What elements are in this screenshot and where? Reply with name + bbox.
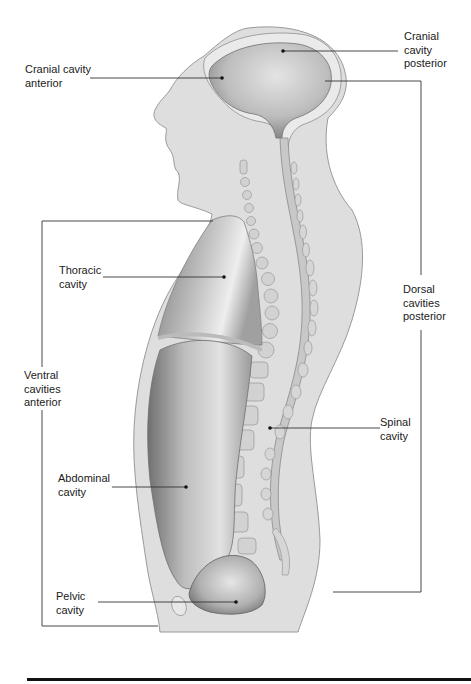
label-dorsal-cavities-posterior: Dorsal cavities posterior xyxy=(403,283,446,324)
label-line: cavities xyxy=(24,383,61,397)
label-line: Cranial cavity xyxy=(25,63,91,77)
label-spinal-cavity: Spinal cavity xyxy=(380,416,411,443)
label-line: Abdominal xyxy=(58,472,110,486)
label-abdominal-cavity: Abdominal cavity xyxy=(58,472,110,499)
label-line: posterior xyxy=(403,310,446,324)
label-line: cavity xyxy=(56,604,85,618)
label-line: posterior xyxy=(404,57,447,71)
label-line: cavity xyxy=(380,430,411,444)
label-pelvic-cavity: Pelvic cavity xyxy=(56,590,85,617)
label-thoracic-cavity: Thoracic cavity xyxy=(59,264,101,291)
label-line: cavity xyxy=(59,278,101,292)
label-line: Dorsal xyxy=(403,283,446,297)
label-line: cavity xyxy=(58,486,110,500)
label-line: Thoracic xyxy=(59,264,101,278)
label-line: Pelvic xyxy=(56,590,85,604)
thoracic-cavity xyxy=(158,216,262,345)
label-line: cavities xyxy=(403,297,446,311)
bottom-rule xyxy=(27,678,471,681)
body-cavities-diagram xyxy=(0,0,471,684)
label-cranial-cavity-anterior: Cranial cavity anterior xyxy=(25,63,91,90)
label-line: cavity xyxy=(404,44,447,58)
label-line: Spinal xyxy=(380,416,411,430)
label-line: anterior xyxy=(24,396,61,410)
label-line: Cranial xyxy=(404,30,447,44)
label-ventral-cavities-anterior: Ventral cavities anterior xyxy=(24,369,61,410)
label-line: anterior xyxy=(25,77,91,91)
label-cranial-cavity-posterior: Cranial cavity posterior xyxy=(404,30,447,71)
label-line: Ventral xyxy=(24,369,61,383)
